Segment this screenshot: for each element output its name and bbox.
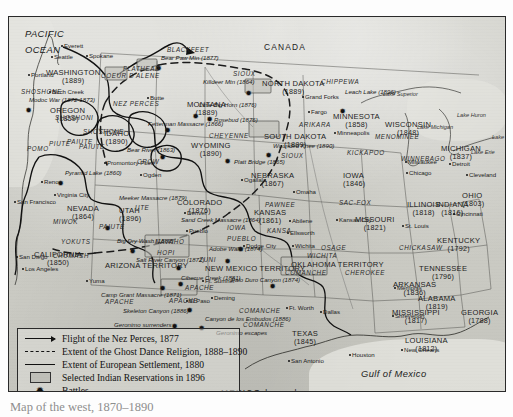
figure-caption: Map of the west, 1870–1890	[10, 400, 310, 415]
historical-map: PACIFICOCEANGulf of MexicoCANADAMEXICOME…	[8, 16, 506, 392]
scan-noise-overlay	[9, 17, 505, 391]
screenshot-root: PACIFICOCEANGulf of MexicoCANADAMEXICOME…	[0, 0, 513, 417]
